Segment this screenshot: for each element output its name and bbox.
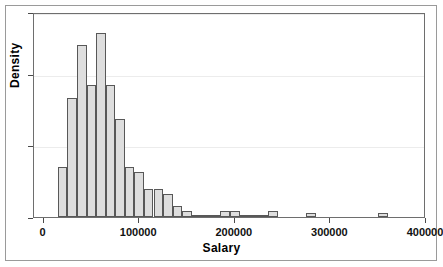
y-axis-tick <box>28 146 33 147</box>
histogram-bar <box>182 211 192 217</box>
y-axis-tick <box>28 75 33 76</box>
histogram-bar <box>144 189 154 217</box>
histogram-bar <box>106 85 116 217</box>
histogram-bar <box>58 167 68 217</box>
plot-panel <box>33 13 425 218</box>
histogram-bar <box>249 215 259 217</box>
y-axis-tick <box>28 13 33 14</box>
histogram-bar <box>134 172 144 217</box>
histogram-bar <box>77 45 87 217</box>
histogram-figure: 0100000200000300000400000 Salary Density <box>0 0 443 267</box>
histogram-bar <box>192 215 202 217</box>
x-axis-tick <box>43 218 44 223</box>
histogram-bar <box>96 33 106 218</box>
histogram-bar <box>154 189 164 217</box>
histogram-bar <box>306 213 316 218</box>
histogram-bar <box>173 206 183 217</box>
histogram-bar <box>115 119 125 217</box>
x-axis-tick-label: 400000 <box>407 226 443 238</box>
histogram-bar <box>201 215 211 217</box>
y-axis-tick <box>28 218 33 219</box>
x-axis-tick <box>234 218 235 223</box>
histogram-bar <box>67 98 77 217</box>
x-axis-tick-label: 200000 <box>215 226 252 238</box>
x-axis-title: Salary <box>0 241 443 255</box>
histogram-bar <box>220 211 230 217</box>
histogram-bar <box>87 85 97 217</box>
x-axis-tick <box>329 218 330 223</box>
histogram-bar <box>125 167 135 217</box>
histogram-bar <box>240 215 250 217</box>
y-axis-title: Density <box>8 43 22 88</box>
x-axis-tick <box>425 218 426 223</box>
histogram-bar <box>230 211 240 217</box>
histogram-bar <box>378 213 388 217</box>
x-axis-tick-label: 300000 <box>311 226 348 238</box>
x-axis-tick-label: 100000 <box>120 226 157 238</box>
x-axis-tick <box>138 218 139 223</box>
histogram-bar <box>259 215 269 217</box>
histogram-bar <box>211 215 221 217</box>
histogram-bar <box>163 194 173 217</box>
histogram-bar <box>268 211 278 217</box>
x-axis-tick-label: 0 <box>39 226 45 238</box>
histogram-bars <box>34 14 424 217</box>
